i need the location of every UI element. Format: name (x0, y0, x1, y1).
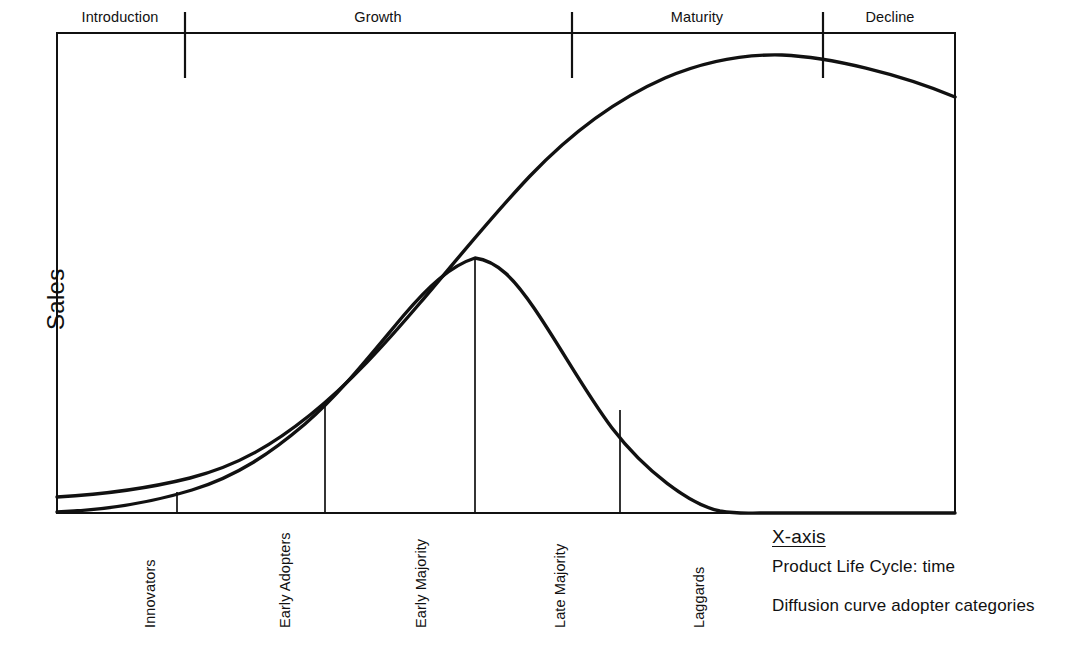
stage-label-maturity: Maturity (671, 10, 723, 25)
adopter-label-laggards: Laggards (692, 567, 707, 628)
x-axis-caption-line1: Product Life Cycle: time (772, 558, 955, 575)
diffusion-curve-figure: Introduction Growth Maturity Decline Sal… (0, 0, 1080, 659)
figure-caption-line2: Diffusion curve adopter categories (772, 597, 1035, 614)
y-axis-title: Sales (44, 268, 68, 330)
cumulative-s-curve (57, 55, 955, 497)
stage-label-growth: Growth (354, 10, 401, 25)
adopter-category-dividers (177, 258, 620, 513)
x-axis-caption-heading: X-axis (772, 527, 826, 546)
adopter-bell-curve (57, 258, 955, 513)
adopter-label-late-majority: Late Majority (553, 544, 568, 628)
adopter-label-early-majority: Early Majority (414, 539, 429, 628)
stage-label-introduction: Introduction (82, 10, 159, 25)
adopter-label-innovators: Innovators (143, 559, 158, 628)
stage-divider-ticks (185, 12, 823, 78)
stage-label-decline: Decline (865, 10, 914, 25)
adopter-label-early-adopters: Early Adopters (278, 532, 293, 628)
